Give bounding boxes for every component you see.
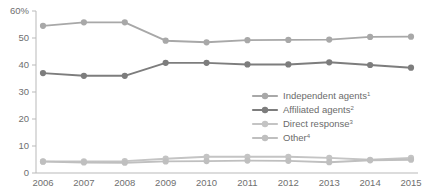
data-point xyxy=(367,34,373,40)
legend-label: Direct response3 xyxy=(283,118,354,129)
data-point xyxy=(40,23,46,29)
y-tick-label: 60% xyxy=(10,5,30,16)
x-tick-label: 2015 xyxy=(400,177,421,188)
data-point xyxy=(40,159,46,165)
legend-footnote: 1 xyxy=(367,91,371,97)
data-point xyxy=(326,59,332,65)
x-tick-label: 2007 xyxy=(73,177,94,188)
legend-footnote: 4 xyxy=(307,133,311,139)
data-point xyxy=(163,158,169,164)
data-point xyxy=(163,60,169,66)
legend-swatch-marker xyxy=(262,121,268,127)
legend-swatch-marker xyxy=(262,107,268,113)
legend-item-other[interactable]: Other4 xyxy=(253,132,311,143)
y-tick-label: 10 xyxy=(18,140,29,151)
data-point xyxy=(122,73,128,79)
legend-item-direct-response[interactable]: Direct response3 xyxy=(253,118,354,129)
series-line xyxy=(43,62,411,76)
legend-label: Independent agents1 xyxy=(283,90,371,101)
legend-footnote: 2 xyxy=(350,105,354,111)
data-point xyxy=(367,62,373,68)
series-affiliated-agents xyxy=(40,59,414,79)
data-point xyxy=(285,61,291,67)
data-point xyxy=(244,61,250,67)
y-tick-label: 40 xyxy=(18,59,29,70)
legend-swatch-marker xyxy=(262,135,268,141)
data-point xyxy=(244,157,250,163)
y-tick-label: 30 xyxy=(18,86,29,97)
legend-footnote: 3 xyxy=(350,119,354,125)
data-point xyxy=(203,60,209,66)
data-point xyxy=(163,38,169,44)
data-point xyxy=(285,158,291,164)
chart-canvas: 0102030405060%20062007200820092010201120… xyxy=(0,0,428,196)
data-point xyxy=(203,158,209,164)
legend-label: Other4 xyxy=(283,132,311,143)
x-tick-label: 2012 xyxy=(278,177,299,188)
data-point xyxy=(81,73,87,79)
series-independent-agents xyxy=(40,19,414,45)
legend-label: Affiliated agents2 xyxy=(283,104,354,115)
data-point xyxy=(122,19,128,25)
data-point xyxy=(408,157,414,163)
line-chart: 0102030405060%20062007200820092010201120… xyxy=(0,0,428,196)
legend-swatch-marker xyxy=(262,93,268,99)
y-tick-label: 0 xyxy=(24,167,29,178)
x-tick-label: 2013 xyxy=(319,177,340,188)
legend-item-independent-agents[interactable]: Independent agents1 xyxy=(253,90,371,101)
x-tick-label: 2008 xyxy=(114,177,135,188)
series-line xyxy=(43,22,411,42)
data-point xyxy=(81,159,87,165)
y-tick-label: 20 xyxy=(18,113,29,124)
x-tick-label: 2014 xyxy=(360,177,381,188)
x-tick-label: 2010 xyxy=(196,177,217,188)
data-point xyxy=(285,37,291,43)
data-point xyxy=(367,157,373,163)
data-point xyxy=(203,39,209,45)
legend-item-affiliated-agents[interactable]: Affiliated agents2 xyxy=(253,104,354,115)
data-point xyxy=(326,159,332,165)
y-tick-label: 50 xyxy=(18,32,29,43)
x-tick-label: 2009 xyxy=(155,177,176,188)
data-point xyxy=(40,70,46,76)
data-point xyxy=(81,19,87,25)
x-tick-label: 2006 xyxy=(32,177,53,188)
data-point xyxy=(122,160,128,166)
data-point xyxy=(244,37,250,43)
data-point xyxy=(408,65,414,71)
x-tick-label: 2011 xyxy=(237,177,257,188)
data-point xyxy=(326,37,332,43)
data-point xyxy=(408,34,414,40)
